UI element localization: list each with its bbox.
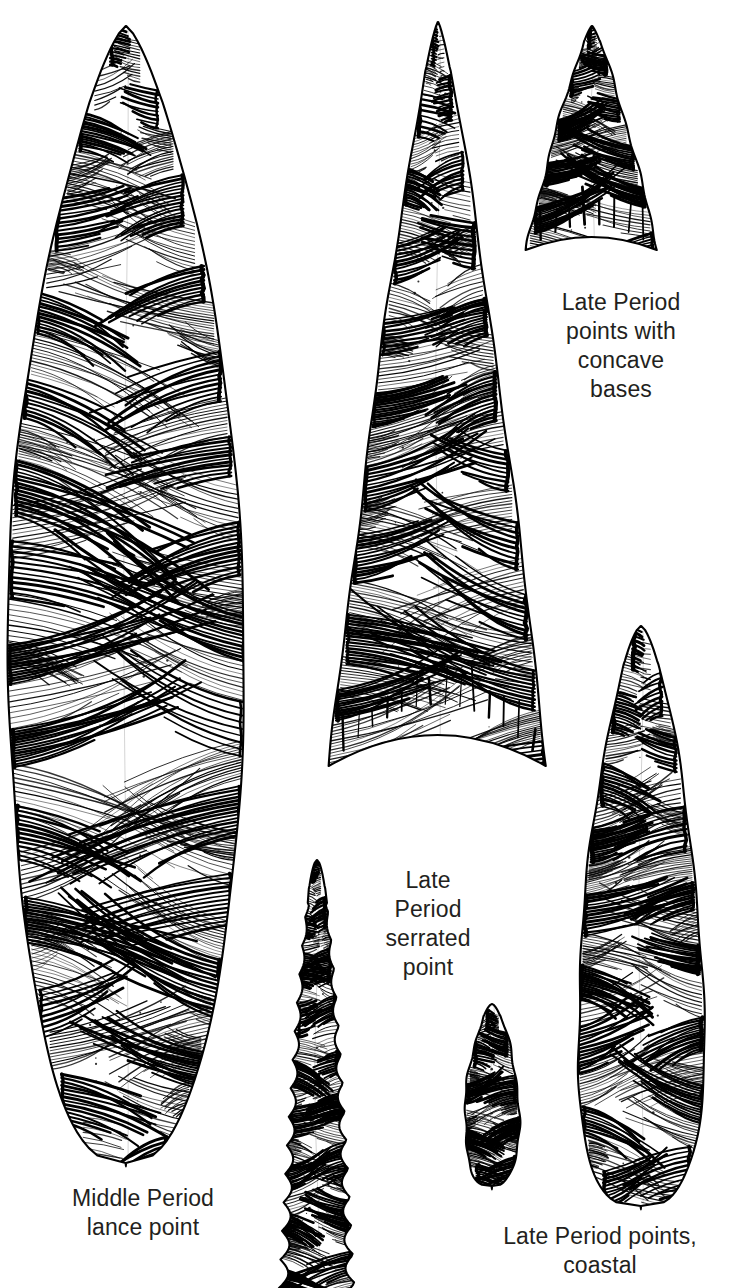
projectile-point-illustration bbox=[0, 0, 745, 1288]
caption-late-period-coastal-points: Late Period points, coastal bbox=[466, 1222, 734, 1280]
caption-late-period-serrated-point: Late Period serrated point bbox=[366, 866, 490, 982]
caption-late-period-concave-bases: Late Period points with concave bases bbox=[523, 288, 719, 404]
illustration-plate: Late Period points with concave bases La… bbox=[0, 0, 745, 1288]
caption-middle-period-lance-point: Middle Period lance point bbox=[36, 1184, 250, 1242]
